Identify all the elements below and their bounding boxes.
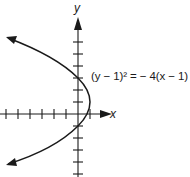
x-axis-label: x xyxy=(110,107,116,121)
y-axis-label: y xyxy=(74,1,80,15)
parabola-graph xyxy=(0,0,190,177)
y-axis-arrow-icon xyxy=(74,17,82,30)
equation-label: (y − 1)² = − 4(x − 1) xyxy=(91,70,188,82)
curve-arrow-upper-icon xyxy=(6,36,17,44)
x-axis xyxy=(0,109,112,119)
y-axis xyxy=(73,17,83,177)
curve-arrow-lower-icon xyxy=(6,158,17,166)
